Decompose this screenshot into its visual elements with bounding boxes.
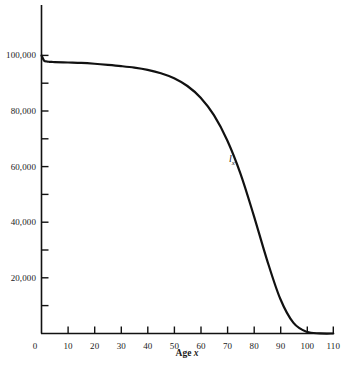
x-tick-label-0: 0: [33, 342, 38, 351]
x-axis-ticks: [68, 327, 333, 334]
y-tick-label-40000: 40,000: [0, 218, 36, 227]
x-axis-title-text: Age: [176, 348, 194, 358]
survival-curve-lx: [42, 55, 334, 333]
x-tick-label-30: 30: [117, 342, 126, 351]
x-tick-label-100: 100: [300, 342, 314, 351]
x-tick-label-80: 80: [250, 342, 259, 351]
y-tick-label-100000: 100,000: [0, 51, 36, 60]
series-annotation-lx: lx: [229, 153, 235, 167]
x-tick-label-10: 10: [63, 342, 72, 351]
y-tick-label-80000: 80,000: [0, 107, 36, 116]
chart-plot-area: [0, 0, 346, 368]
series-annotation-subscript: x: [232, 159, 235, 167]
x-tick-label-20: 20: [90, 342, 99, 351]
x-tick-label-90: 90: [276, 342, 285, 351]
x-tick-label-40: 40: [143, 342, 152, 351]
x-axis-title: Age x: [176, 348, 199, 358]
y-axis-ticks: [42, 55, 49, 305]
chart-container: 100,000 80,000 60,000 40,000 20,000 0 10…: [0, 0, 346, 368]
y-tick-label-20000: 20,000: [0, 273, 36, 282]
x-axis-title-variable: x: [194, 348, 199, 358]
x-tick-label-110: 110: [327, 342, 340, 351]
x-tick-label-70: 70: [223, 342, 232, 351]
y-tick-label-60000: 60,000: [0, 162, 36, 171]
